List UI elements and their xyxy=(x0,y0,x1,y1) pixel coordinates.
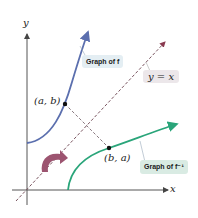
point-ba xyxy=(107,146,111,150)
label-point-ab: (a, b) xyxy=(34,95,61,106)
point-ab xyxy=(63,102,67,106)
label-point-ba: (b, a) xyxy=(104,152,131,163)
f-curve xyxy=(27,32,88,143)
label-identity-line: y = x xyxy=(143,70,179,83)
y-axis-label: y xyxy=(23,17,29,28)
label-graph-f-inverse: Graph of f⁻¹ xyxy=(140,160,188,174)
inverse-function-diagram xyxy=(0,0,198,218)
label-graph-f: Graph of f xyxy=(82,55,123,68)
reflection-arrow-icon xyxy=(42,150,68,172)
x-axis-label: x xyxy=(170,183,176,194)
